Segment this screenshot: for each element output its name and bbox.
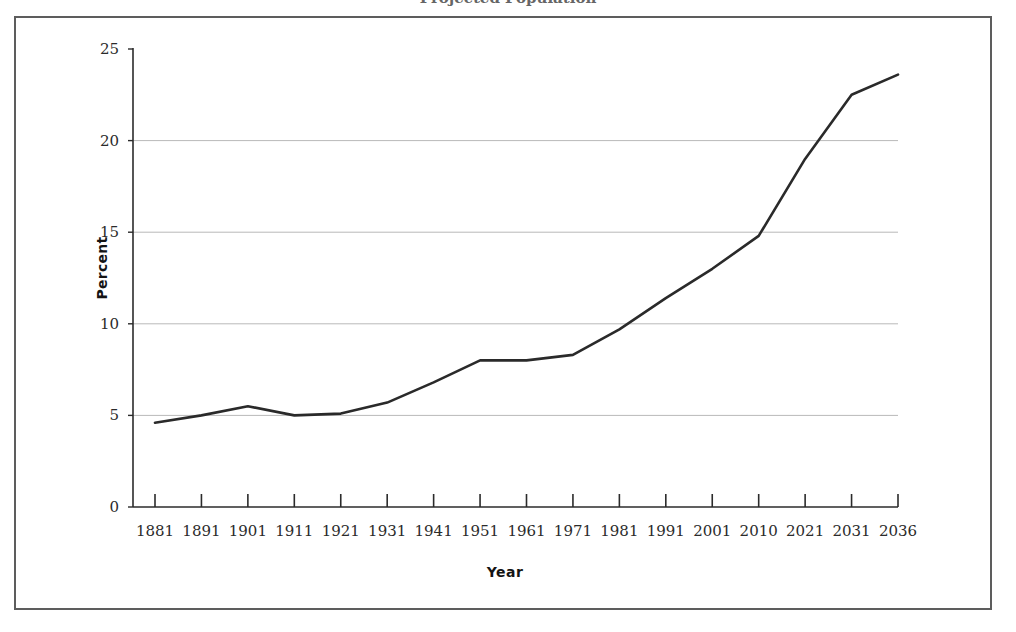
x-tick-label: 1981 [597, 522, 641, 540]
x-tick-label: 1961 [505, 522, 549, 540]
x-tick-label: 2010 [737, 522, 781, 540]
x-tick-label: 2031 [830, 522, 874, 540]
svg-text:25: 25 [100, 40, 119, 58]
x-tick-label: 1891 [179, 522, 223, 540]
svg-text:20: 20 [100, 132, 119, 150]
x-tick-label: 1901 [226, 522, 270, 540]
x-tick-label: 1881 [133, 522, 177, 540]
x-tick-label: 2001 [690, 522, 734, 540]
x-tick-label: 1951 [458, 522, 502, 540]
x-tick-label: 1931 [365, 522, 409, 540]
gridlines [133, 141, 898, 416]
axis-lines [133, 48, 898, 507]
data-series-line [155, 75, 898, 423]
x-tick-label: 2036 [876, 522, 920, 540]
y-axis-title: Percent [94, 208, 110, 328]
clipped-chart-title: Projected Population [0, 0, 1016, 14]
x-tick-label: 1921 [319, 522, 363, 540]
x-tick-label: 1971 [551, 522, 595, 540]
svg-text:0: 0 [109, 498, 119, 516]
x-tick-label: 1991 [644, 522, 688, 540]
chart-frame: 0510152025 18811891190119111921193119411… [14, 16, 992, 610]
x-axis-ticks [155, 494, 898, 507]
plot-area: 0510152025 18811891190119111921193119411… [16, 18, 994, 612]
x-axis-title: Year [16, 564, 994, 580]
clipped-chart-title-text: Projected Population [420, 0, 597, 6]
x-tick-label: 2021 [783, 522, 827, 540]
svg-text:5: 5 [109, 406, 119, 424]
x-tick-label: 1941 [412, 522, 456, 540]
x-tick-label: 1911 [272, 522, 316, 540]
